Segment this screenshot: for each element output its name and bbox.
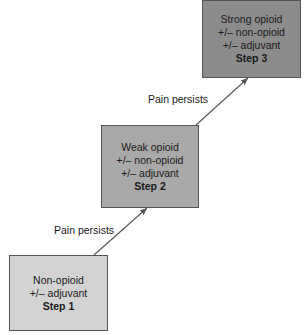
step-3-label: Step 3 (236, 52, 268, 65)
step-3-box: Strong opioid +/– non-opioid +/– adjuvan… (202, 0, 301, 78)
step-2-box: Weak opioid +/– non-opioid +/– adjuvant … (101, 125, 199, 208)
step-1-line-1: Non-opioid (33, 274, 84, 287)
step-2-label: Step 2 (134, 180, 166, 193)
step-1-box: Non-opioid +/– adjuvant Step 1 (9, 255, 108, 331)
step-1-line-2: +/– adjuvant (30, 287, 88, 300)
transition-label-1: Pain persists (54, 224, 114, 236)
step-2-line-1: Weak opioid (121, 141, 179, 154)
step-3-line-1: Strong opioid (221, 13, 283, 26)
step-2-line-3: +/– adjuvant (121, 167, 179, 180)
step-3-line-2: +/– non-opioid (218, 26, 285, 39)
step-2-line-2: +/– non-opioid (117, 154, 184, 167)
step-1-label: Step 1 (43, 300, 75, 313)
step-3-line-3: +/– adjuvant (223, 39, 281, 52)
transition-label-2: Pain persists (148, 93, 208, 105)
